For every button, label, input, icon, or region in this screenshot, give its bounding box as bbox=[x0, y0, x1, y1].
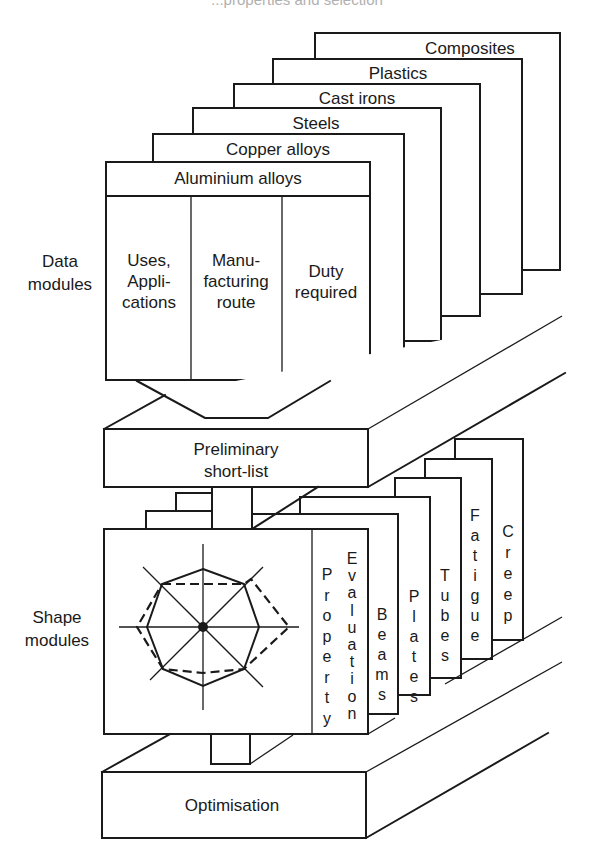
svg-text:e: e bbox=[504, 586, 513, 603]
data-module-stack: Composites Plastics Cast irons Steels Co… bbox=[106, 33, 560, 380]
svg-text:E: E bbox=[347, 550, 358, 567]
svg-text:v: v bbox=[348, 567, 356, 584]
svg-text:a: a bbox=[348, 584, 357, 601]
svg-text:s: s bbox=[378, 686, 386, 703]
svg-text:t: t bbox=[412, 648, 417, 665]
evaluation-label: Evaluation bbox=[347, 550, 358, 722]
svg-text:l: l bbox=[412, 608, 416, 625]
svg-text:a: a bbox=[348, 636, 357, 653]
svg-text:p: p bbox=[323, 628, 332, 645]
svg-text:s: s bbox=[410, 688, 418, 705]
svg-text:u: u bbox=[441, 587, 450, 604]
svg-text:r: r bbox=[324, 669, 330, 686]
svg-text:Appli-: Appli- bbox=[127, 272, 170, 291]
svg-text:t: t bbox=[473, 547, 478, 564]
radar-center-dot bbox=[198, 622, 208, 632]
svg-text:P: P bbox=[322, 566, 333, 583]
data-card-label: Copper alloys bbox=[226, 140, 330, 159]
svg-text:Manu-: Manu- bbox=[212, 251, 260, 270]
svg-text:P: P bbox=[409, 588, 420, 605]
svg-text:e: e bbox=[441, 627, 450, 644]
svg-text:t: t bbox=[350, 653, 355, 670]
svg-text:r: r bbox=[324, 587, 330, 604]
svg-text:o: o bbox=[348, 688, 357, 705]
svg-text:i: i bbox=[350, 670, 354, 687]
data-card-label: Aluminium alloys bbox=[174, 169, 302, 188]
svg-text:Duty: Duty bbox=[309, 262, 344, 281]
preliminary-label: Preliminary bbox=[193, 440, 279, 459]
svg-text:cations: cations bbox=[122, 293, 176, 312]
tubes-label: Tubes bbox=[440, 567, 450, 664]
svg-text:i: i bbox=[473, 567, 477, 584]
data-card-label: Steels bbox=[292, 114, 339, 133]
svg-text:facturing: facturing bbox=[203, 272, 268, 291]
svg-text:T: T bbox=[440, 567, 450, 584]
svg-text:r: r bbox=[505, 544, 511, 561]
data-modules-label: Data modules bbox=[28, 252, 92, 294]
svg-text:b: b bbox=[441, 607, 450, 624]
svg-text:Data: Data bbox=[42, 252, 78, 271]
svg-text:route: route bbox=[217, 293, 256, 312]
column-uses-applications: Uses, Appli- cations bbox=[122, 251, 176, 312]
svg-text:a: a bbox=[471, 527, 480, 544]
svg-text:e: e bbox=[323, 648, 332, 665]
svg-text:F: F bbox=[470, 507, 480, 524]
materials-selection-diagram: Composites Plastics Cast irons Steels Co… bbox=[0, 0, 594, 864]
data-card-aluminium-alloys: Aluminium alloys Uses, Appli- cations Ma… bbox=[106, 162, 370, 380]
svg-text:t: t bbox=[325, 689, 330, 706]
svg-text:modules: modules bbox=[28, 275, 92, 294]
svg-text:a: a bbox=[410, 628, 419, 645]
svg-text:e: e bbox=[410, 668, 419, 685]
svg-text:g: g bbox=[471, 587, 480, 604]
svg-text:s: s bbox=[441, 647, 449, 664]
svg-text:B: B bbox=[377, 606, 388, 623]
svg-text:l: l bbox=[350, 602, 354, 619]
svg-text:p: p bbox=[504, 607, 513, 624]
svg-text:o: o bbox=[323, 607, 332, 624]
shape-modules-label: Shape modules bbox=[25, 608, 89, 650]
svg-text:y: y bbox=[323, 710, 331, 727]
svg-text:modules: modules bbox=[25, 631, 89, 650]
data-card-label: Plastics bbox=[369, 64, 428, 83]
svg-text:u: u bbox=[348, 619, 357, 636]
svg-text:e: e bbox=[504, 565, 513, 582]
svg-text:e: e bbox=[471, 627, 480, 644]
svg-text:m: m bbox=[375, 666, 388, 683]
preliminary-label: short-list bbox=[204, 462, 269, 481]
svg-text:a: a bbox=[378, 646, 387, 663]
data-card-label: Composites bbox=[425, 39, 515, 58]
svg-text:Uses,: Uses, bbox=[127, 251, 170, 270]
svg-text:Shape: Shape bbox=[32, 608, 81, 627]
data-card-label: Cast irons bbox=[319, 89, 396, 108]
creep-label: Creep bbox=[502, 523, 514, 624]
svg-text:C: C bbox=[502, 523, 514, 540]
svg-text:required: required bbox=[295, 283, 357, 302]
svg-text:n: n bbox=[348, 705, 357, 722]
svg-text:u: u bbox=[471, 607, 480, 624]
optimisation-label: Optimisation bbox=[185, 796, 279, 815]
svg-text:e: e bbox=[378, 626, 387, 643]
